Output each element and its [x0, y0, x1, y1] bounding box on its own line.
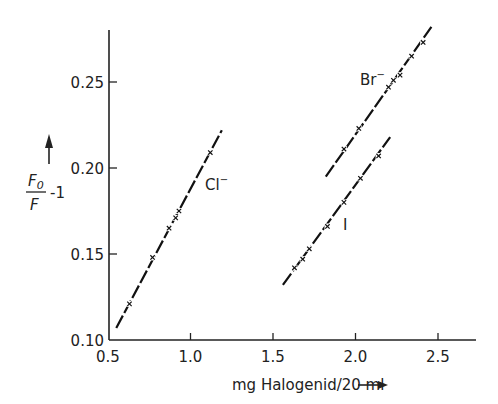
x-tick-label: 0.5 [96, 348, 120, 366]
x-tick-label: 2.0 [344, 348, 368, 366]
series-0 [116, 130, 222, 328]
y-arrow-icon [45, 134, 53, 164]
x-tick-label: 2.5 [426, 348, 450, 366]
series-2 [283, 137, 390, 285]
label-br: Br− [360, 69, 385, 89]
x-tick-label: 1.5 [261, 348, 285, 366]
y-tick-label: 0.20 [71, 160, 104, 178]
svg-text:-1: -1 [50, 184, 65, 202]
y-ticks: 0.100.150.200.25 [71, 74, 117, 350]
y-tick-label: 0.10 [71, 332, 104, 350]
y-tick-label: 0.15 [71, 246, 104, 264]
label-cl: Cl− [205, 174, 228, 194]
svg-text:F: F [30, 196, 39, 214]
x-ticks: 0.51.01.52.02.5 [96, 333, 450, 366]
x-tick-label: 1.0 [179, 348, 203, 366]
chart: 0.51.01.52.02.5 0.100.150.200.25 Cl− Br−… [0, 0, 498, 404]
label-i: I [343, 216, 347, 234]
svg-text:F0: F0 [28, 172, 44, 192]
y-axis-label: F0 F -1 [26, 172, 65, 214]
y-tick-label: 0.25 [71, 74, 104, 92]
